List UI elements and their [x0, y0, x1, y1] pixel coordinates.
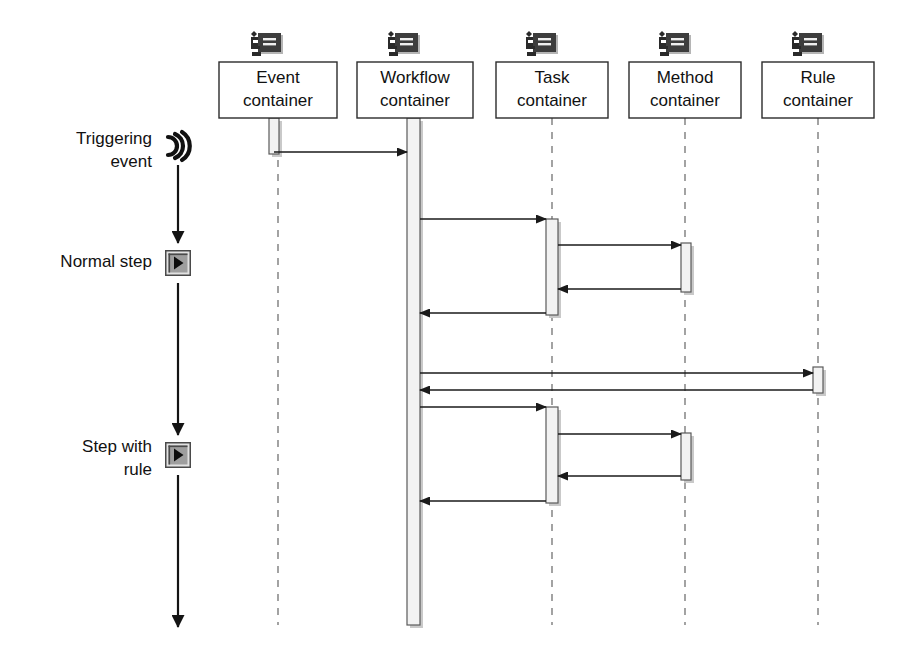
step-triggering-event[interactable]: Triggering event	[76, 129, 190, 171]
component-node-icon	[659, 31, 691, 56]
component-node-icon	[388, 31, 420, 56]
activation-task-normal-step	[546, 219, 558, 315]
lifeline-head-rule[interactable]: Rule container	[762, 31, 874, 118]
lifeline-label-task-line2: container	[517, 91, 587, 110]
lifeline-label-rule-line1: Rule	[801, 68, 836, 87]
lifeline-heads: Event container Workflow container Task	[219, 31, 874, 118]
lifeline-label-rule-line2: container	[783, 91, 853, 110]
play-button-icon[interactable]	[165, 250, 191, 276]
activation-task-step-with-rule	[546, 407, 558, 503]
sequence-diagram-root: Event container Workflow container Task	[0, 0, 908, 656]
lifeline-head-method[interactable]: Method container	[629, 31, 741, 118]
step-label-normal-step: Normal step	[60, 252, 152, 271]
step-normal-step[interactable]: Normal step	[60, 250, 191, 276]
component-node-icon	[526, 31, 558, 56]
lifeline-label-workflow-line1: Workflow	[380, 68, 450, 87]
component-node-icon	[792, 31, 824, 56]
lifeline-head-task[interactable]: Task container	[496, 31, 608, 118]
step-label-triggering-event-line2: event	[110, 152, 152, 171]
activation-workflow	[407, 118, 420, 625]
diagram-canvas: Event container Workflow container Task	[0, 0, 908, 656]
lifeline-head-event[interactable]: Event container	[219, 31, 337, 118]
lifeline-label-task-line1: Task	[535, 68, 570, 87]
step-flow-column: Triggering event Normal step Step with	[60, 129, 191, 627]
step-label-triggering-event-line1: Triggering	[76, 129, 152, 148]
lifeline-label-workflow-line2: container	[380, 91, 450, 110]
activation-method-normal-step	[681, 243, 691, 292]
play-button-icon[interactable]	[165, 442, 191, 468]
step-step-with-rule[interactable]: Step with rule	[82, 437, 191, 479]
lifeline-label-event-line2: container	[243, 91, 313, 110]
lifeline-label-event-line1: Event	[256, 68, 300, 87]
lifeline-head-workflow[interactable]: Workflow container	[357, 31, 473, 118]
activation-method-step-with-rule	[681, 433, 691, 480]
lifeline-label-method-line1: Method	[657, 68, 714, 87]
step-label-step-with-rule-line2: rule	[124, 460, 152, 479]
lifeline-label-method-line2: container	[650, 91, 720, 110]
component-node-icon	[251, 31, 283, 56]
signal-wave-icon	[168, 132, 190, 160]
lifeline-dashes	[278, 118, 818, 625]
step-label-step-with-rule-line1: Step with	[82, 437, 152, 456]
messages	[274, 152, 813, 501]
activation-rule	[813, 367, 823, 393]
activation-event	[269, 118, 279, 154]
